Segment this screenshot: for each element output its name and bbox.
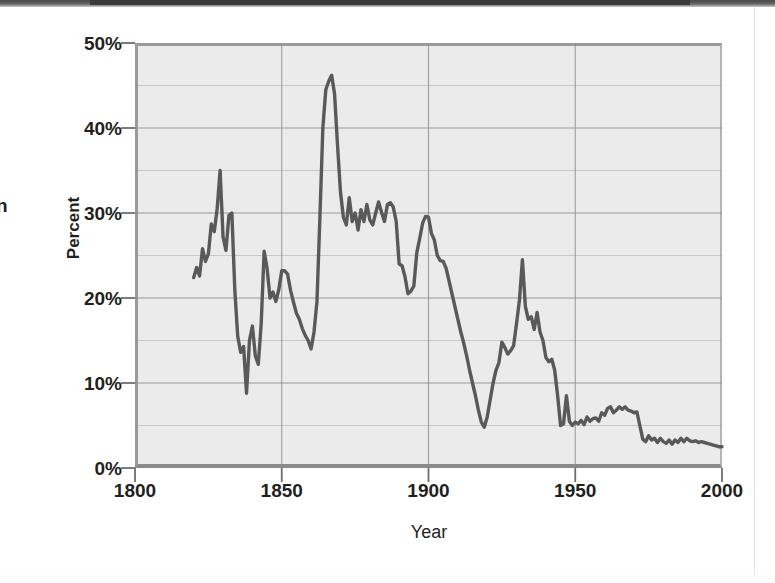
chart-figure: 0%10%20%30%40%50% 18001850190019502000 P… xyxy=(0,0,775,583)
x-tick-label: 1850 xyxy=(237,481,327,500)
y-tick-label: 40% xyxy=(50,119,122,138)
x-axis-title: Year xyxy=(135,522,723,543)
x-tick-label: 1800 xyxy=(90,481,180,500)
y-tick-marks xyxy=(121,43,135,468)
page-edge-bottom xyxy=(0,575,775,583)
y-tick-label: 10% xyxy=(50,374,122,393)
y-tick-label: 50% xyxy=(50,34,122,53)
x-tick-label: 1900 xyxy=(384,481,474,500)
y-tick-label: 20% xyxy=(50,289,122,308)
x-tick-label: 1950 xyxy=(530,481,620,500)
y-tick-label: 0% xyxy=(50,459,122,478)
y-tick-label: 30% xyxy=(50,204,122,223)
y-axis-title: Percent xyxy=(64,168,84,288)
page-edge-right xyxy=(754,7,775,583)
